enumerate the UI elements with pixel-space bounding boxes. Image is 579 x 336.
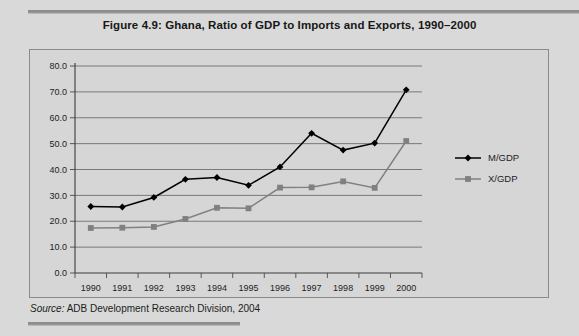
x-axis-tick-label: 1996 [270, 283, 290, 293]
top-divider-rule [28, 10, 579, 14]
y-axis-tick-label: 40.0 [49, 165, 67, 175]
y-axis-tick-label: 0.0 [54, 268, 67, 278]
data-point-marker [119, 204, 126, 211]
data-point-marker [151, 224, 157, 230]
bottom-divider-rule [28, 322, 240, 326]
data-point-marker [340, 179, 346, 185]
y-axis-tick-label: 10.0 [49, 242, 67, 252]
data-point-marker [214, 205, 220, 211]
y-axis-tick-label: 30.0 [49, 191, 67, 201]
legend-label: M/GDP [488, 152, 519, 163]
series-line-m-gdp [91, 90, 406, 207]
y-axis-tick-label: 20.0 [49, 216, 67, 226]
x-axis-tick-label: 1994 [207, 283, 227, 293]
x-axis-tick-label: 1997 [302, 283, 322, 293]
y-axis-tick-label: 80.0 [49, 61, 67, 71]
figure-title: Figure 4.9: Ghana, Ratio of GDP to Impor… [0, 19, 579, 31]
line-chart: 0.010.020.030.040.050.060.070.080.019901… [30, 50, 548, 297]
data-point-marker [403, 138, 409, 144]
data-point-marker [88, 225, 94, 231]
data-point-marker [87, 203, 94, 210]
data-point-marker [182, 176, 189, 183]
data-point-marker [183, 216, 189, 222]
legend-label: X/GDP [488, 173, 518, 184]
source-label: Source: [30, 303, 64, 314]
data-point-marker [245, 182, 252, 189]
data-point-marker [277, 185, 283, 191]
chart-container: 0.010.020.030.040.050.060.070.080.019901… [29, 49, 549, 298]
x-axis-tick-label: 2000 [396, 283, 416, 293]
data-point-marker [340, 147, 347, 154]
source-caption: Source: ADB Development Research Divisio… [30, 303, 260, 314]
x-axis-tick-label: 1993 [175, 283, 195, 293]
y-axis-tick-label: 60.0 [49, 113, 67, 123]
legend-marker [465, 155, 472, 162]
x-axis-tick-label: 1992 [144, 283, 164, 293]
data-point-marker [371, 140, 378, 147]
data-point-marker [214, 174, 221, 181]
data-point-marker [309, 184, 315, 190]
data-point-marker [119, 225, 125, 231]
legend-marker [465, 176, 471, 182]
x-axis-tick-label: 1995 [238, 283, 258, 293]
y-axis-tick-label: 50.0 [49, 139, 67, 149]
data-point-marker [372, 185, 378, 191]
data-point-marker [246, 205, 252, 211]
x-axis-tick-label: 1991 [112, 283, 132, 293]
x-axis-tick-label: 1999 [365, 283, 385, 293]
source-text: ADB Development Research Division, 2004 [64, 303, 260, 314]
x-axis-tick-label: 1990 [81, 283, 101, 293]
x-axis-tick-label: 1998 [333, 283, 353, 293]
y-axis-tick-label: 70.0 [49, 87, 67, 97]
